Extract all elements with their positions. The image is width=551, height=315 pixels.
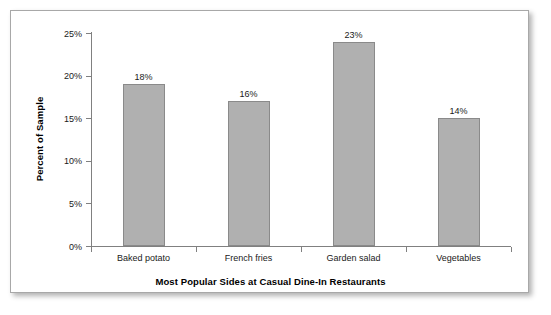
x-axis-tick bbox=[196, 247, 197, 252]
chart-card: Percent of Sample 0%5%10%15%20%25% 18%16… bbox=[10, 10, 529, 293]
y-axis-tick: 5% bbox=[86, 203, 91, 204]
y-axis-tick: 25% bbox=[86, 33, 91, 34]
x-axis-category-label: Garden salad bbox=[301, 254, 406, 263]
bar-value-label: 23% bbox=[344, 31, 362, 40]
bar-value-label: 18% bbox=[134, 73, 152, 82]
x-axis-tick bbox=[511, 247, 512, 252]
x-axis-category-label: Vegetables bbox=[406, 254, 511, 263]
bar-chart-plot: Percent of Sample 0%5%10%15%20%25% 18%16… bbox=[11, 11, 530, 294]
y-axis-tick-label: 15% bbox=[64, 114, 82, 123]
bar: 18% bbox=[123, 84, 165, 246]
x-axis-category-label: French fries bbox=[196, 254, 301, 263]
y-axis-title: Percent of Sample bbox=[34, 97, 45, 182]
x-axis-title: Most Popular Sides at Casual Dine-In Res… bbox=[11, 276, 530, 287]
x-axis-category-label: Baked potato bbox=[91, 254, 196, 263]
bar: 23% bbox=[333, 42, 375, 246]
bar: 16% bbox=[228, 101, 270, 246]
x-axis-tick bbox=[91, 247, 92, 252]
y-axis-tick-label: 0% bbox=[69, 242, 82, 251]
y-axis-tick-label: 20% bbox=[64, 72, 82, 81]
x-axis-tick bbox=[406, 247, 407, 252]
y-axis-tick: 20% bbox=[86, 76, 91, 77]
y-axis-tick-label: 10% bbox=[64, 157, 82, 166]
y-axis-line bbox=[91, 32, 92, 247]
y-axis-tick-label: 5% bbox=[69, 199, 82, 208]
bar-value-label: 14% bbox=[449, 107, 467, 116]
y-axis-tick: 15% bbox=[86, 118, 91, 119]
bar: 14% bbox=[438, 118, 480, 246]
y-axis-tick-label: 25% bbox=[64, 29, 82, 38]
bar-value-label: 16% bbox=[239, 90, 257, 99]
x-axis-tick bbox=[301, 247, 302, 252]
y-axis-tick: 10% bbox=[86, 161, 91, 162]
